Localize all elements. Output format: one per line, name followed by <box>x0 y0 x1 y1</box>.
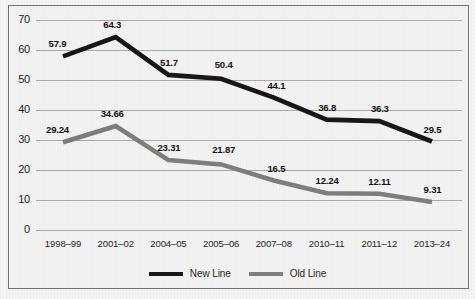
x-axis-tick-label: 2004–05 <box>139 238 197 249</box>
y-axis-tick-label: 60 <box>4 43 30 55</box>
data-point-label: 64.3 <box>103 19 121 30</box>
x-axis-tick-label: 2007–08 <box>245 238 303 249</box>
y-axis-tick-label: 30 <box>4 133 30 145</box>
legend-item[interactable]: Old Line <box>249 268 326 279</box>
data-point-label: 29.24 <box>46 124 69 135</box>
legend-item[interactable]: New Line <box>149 268 231 279</box>
legend-swatch-icon <box>249 272 283 276</box>
data-point-label: 34.66 <box>101 108 124 119</box>
x-axis-tick-label: 2013–24 <box>403 238 461 249</box>
legend-label: Old Line <box>290 268 326 279</box>
page-background: 010203040506070 1998–992001–022004–05200… <box>0 0 475 299</box>
legend-label: New Line <box>190 268 231 279</box>
line-chart-plot <box>0 0 475 299</box>
x-axis-tick-label: 2011–12 <box>350 238 408 249</box>
data-point-label: 51.7 <box>160 57 178 68</box>
x-axis-tick-label: 2001–02 <box>87 238 145 249</box>
chart-legend: New LineOld Line <box>0 268 475 279</box>
data-point-label: 23.31 <box>157 142 180 153</box>
y-axis-tick-label: 40 <box>4 103 30 115</box>
y-axis-tick-label: 50 <box>4 73 30 85</box>
data-point-label: 29.5 <box>424 124 442 135</box>
data-point-label: 50.4 <box>215 59 233 70</box>
legend-swatch-icon <box>149 272 183 276</box>
y-axis-tick-label: 10 <box>4 193 30 205</box>
data-point-label: 44.1 <box>267 80 285 91</box>
data-point-label: 12.11 <box>368 176 390 187</box>
x-axis-tick-label: 1998–99 <box>34 238 92 249</box>
data-point-label: 16.5 <box>267 163 285 174</box>
data-point-label: 12.24 <box>316 175 339 186</box>
x-axis-tick-label: 2010–11 <box>298 238 356 249</box>
y-axis-tick-label: 70 <box>4 13 30 25</box>
data-point-label: 21.87 <box>212 144 235 155</box>
series-line <box>63 126 432 202</box>
x-axis-tick-label: 2005–06 <box>192 238 250 249</box>
data-point-label: 36.8 <box>318 102 336 113</box>
data-point-label: 36.3 <box>371 103 389 114</box>
data-point-label: 57.9 <box>49 38 67 49</box>
y-axis-tick-label: 0 <box>4 223 30 235</box>
data-point-label: 9.31 <box>424 184 442 195</box>
y-axis-tick-label: 20 <box>4 163 30 175</box>
